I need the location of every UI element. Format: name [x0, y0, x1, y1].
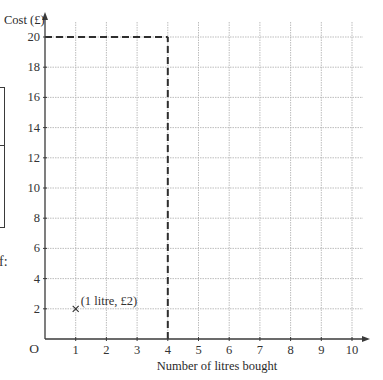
y-tick-label: 6 — [34, 241, 40, 255]
x-tick-label: 1 — [73, 343, 79, 357]
grid-lines — [45, 22, 363, 339]
x-tick-label: 6 — [226, 343, 232, 357]
cost-vs-litres-chart: 123456789102468101214161820 (1 litre, £2… — [0, 0, 383, 380]
x-tick-label: 9 — [318, 343, 324, 357]
y-axis-title: Cost (£) — [4, 13, 45, 27]
y-tick-label: 2 — [34, 302, 40, 316]
x-axis-title: Number of litres bought — [157, 359, 278, 373]
y-tick-label: 12 — [28, 151, 41, 165]
y-tick-label: 10 — [28, 181, 41, 195]
x-tick-label: 5 — [195, 343, 201, 357]
y-tick-label: 8 — [34, 211, 40, 225]
x-axis-arrow-icon — [362, 336, 370, 342]
y-tick-label: 14 — [28, 121, 41, 135]
point-annotation: (1 litre, £2) — [81, 294, 138, 308]
x-tick-label: 8 — [287, 343, 293, 357]
y-tick-label: 18 — [28, 60, 41, 74]
y-tick-label: 20 — [28, 30, 41, 44]
y-tick-label: 4 — [34, 272, 41, 286]
x-tick-label: 2 — [103, 343, 109, 357]
x-tick-label: 10 — [346, 343, 359, 357]
x-tick-label: 3 — [134, 343, 140, 357]
y-tick-label: 16 — [28, 90, 41, 104]
axes — [42, 12, 370, 342]
x-tick-label: 7 — [257, 343, 263, 357]
origin-label: O — [29, 341, 39, 356]
x-tick-label: 4 — [165, 343, 172, 357]
